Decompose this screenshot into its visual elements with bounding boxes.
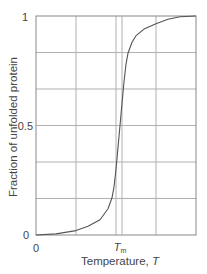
x-axis-label: Temperature, T: [81, 255, 160, 267]
x-axis-label-var: T: [152, 255, 160, 267]
y-tick-1: 1: [22, 11, 28, 23]
y-tick-0: 0: [23, 229, 29, 241]
tm-subscript: m: [120, 247, 126, 254]
chart: 1 0.5 0 0 Tm Temperature, T Fraction of …: [0, 0, 207, 274]
x-tick-tm: Tm: [114, 241, 127, 254]
grid-lines: [36, 16, 196, 235]
x-axis-label-text: Temperature,: [81, 255, 152, 267]
y-tick-0.5: 0.5: [18, 120, 33, 132]
x-tick-0: 0: [33, 242, 39, 254]
y-axis-label: Fraction of unfolded protein: [7, 57, 19, 197]
